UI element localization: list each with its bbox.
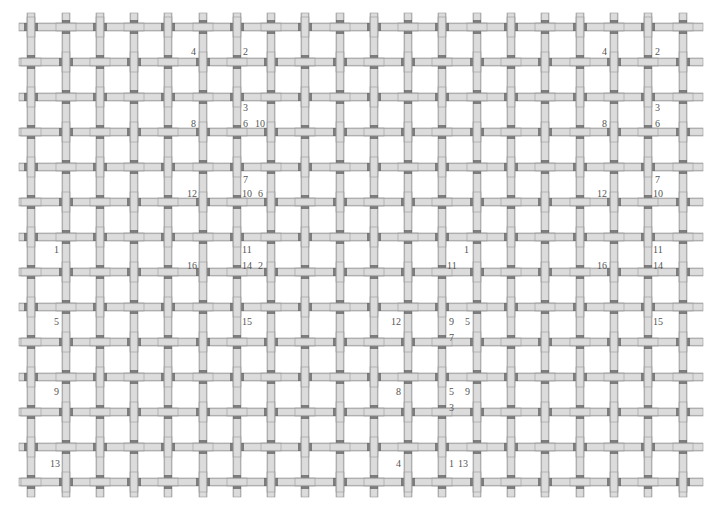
weft-over-crossing	[158, 128, 178, 136]
warp-over-crossing	[404, 332, 412, 352]
crossing-shadow	[264, 198, 267, 206]
crossing-shadow	[576, 276, 584, 279]
weft-over-crossing	[535, 303, 555, 311]
crossing-shadow	[164, 416, 172, 419]
warp-over-crossing	[164, 297, 172, 317]
crossing-shadow	[679, 440, 687, 443]
warp-over-crossing	[610, 192, 618, 212]
crossing-shadow	[576, 475, 584, 478]
crossing-shadow	[378, 93, 381, 101]
crossing-shadow	[301, 66, 309, 69]
crossing-shadow	[473, 31, 481, 34]
warp-over-crossing	[233, 87, 241, 107]
warp-over-crossing	[267, 52, 275, 72]
weft-over-crossing	[330, 23, 350, 31]
weft-over-crossing	[193, 233, 213, 241]
weft-over-crossing	[673, 303, 693, 311]
crossing-shadow	[446, 233, 449, 241]
crossing-shadow	[267, 300, 275, 303]
crossing-shadow	[138, 128, 141, 136]
weft-over-crossing	[261, 443, 281, 451]
warp-over-crossing	[576, 17, 584, 37]
warp-over-crossing	[473, 52, 481, 72]
crossing-shadow	[618, 408, 621, 416]
crossing-shadow	[233, 276, 241, 279]
crossing-shadow	[367, 443, 370, 451]
weft-over-crossing	[604, 373, 624, 381]
crossing-shadow	[70, 58, 73, 66]
weft-over-crossing	[501, 268, 521, 276]
crossing-shadow	[27, 206, 35, 209]
warp-strand	[62, 13, 70, 497]
weft-over-crossing	[193, 23, 213, 31]
crossing-shadow	[96, 66, 104, 69]
crossing-shadow	[470, 58, 473, 66]
crossing-shadow	[412, 58, 415, 66]
crossing-shadow	[138, 58, 141, 66]
crossing-shadow	[438, 265, 446, 268]
warp-over-crossing	[644, 437, 652, 457]
warp-over-crossing	[438, 437, 446, 457]
weft-over-crossing	[535, 93, 555, 101]
crossing-shadow	[27, 405, 35, 408]
weft-over-crossing	[398, 23, 418, 31]
crossing-shadow	[538, 338, 541, 346]
weft-over-crossing	[330, 163, 350, 171]
crossing-shadow	[610, 160, 618, 163]
crossing-shadow	[584, 163, 587, 171]
warp-over-crossing	[473, 122, 481, 142]
weft-over-crossing	[90, 128, 110, 136]
crossing-shadow	[233, 335, 241, 338]
crossing-shadow	[515, 303, 518, 311]
warp-over-crossing	[610, 122, 618, 142]
crossing-shadow	[298, 373, 301, 381]
crossing-shadow	[59, 58, 62, 66]
crossing-shadow	[573, 303, 576, 311]
crossing-shadow	[618, 198, 621, 206]
weft-over-crossing	[673, 23, 693, 31]
warp-over-crossing	[233, 297, 241, 317]
crossing-shadow	[96, 475, 104, 478]
warp-over-crossing	[27, 17, 35, 37]
crossing-shadow	[70, 478, 73, 486]
weft-over-crossing	[261, 163, 281, 171]
warp-strand	[267, 13, 275, 497]
weft-over-crossing	[158, 408, 178, 416]
warp-over-crossing	[62, 332, 70, 352]
crossing-shadow	[507, 416, 515, 419]
crossing-shadow	[62, 311, 70, 314]
number-label: 4	[191, 47, 196, 57]
crossing-shadow	[130, 20, 138, 23]
crossing-shadow	[199, 451, 207, 454]
warp-over-crossing	[438, 17, 446, 37]
crossing-shadow	[233, 405, 241, 408]
crossing-shadow	[62, 101, 70, 104]
crossing-shadow	[127, 198, 130, 206]
crossing-shadow	[652, 373, 655, 381]
weft-strand	[19, 163, 703, 171]
weft-over-crossing	[398, 303, 418, 311]
weft-over-crossing	[467, 23, 487, 31]
crossing-shadow	[576, 55, 584, 58]
warp-over-crossing	[336, 192, 344, 212]
weft-over-crossing	[330, 93, 350, 101]
crossing-shadow	[130, 311, 138, 314]
crossing-shadow	[96, 136, 104, 139]
warp-over-crossing	[404, 262, 412, 282]
weft-over-crossing	[501, 198, 521, 206]
warp-over-crossing	[679, 472, 687, 492]
crossing-shadow	[504, 233, 507, 241]
weft-over-crossing	[638, 338, 658, 346]
weft-over-crossing	[604, 163, 624, 171]
crossing-shadow	[199, 90, 207, 93]
warp-over-crossing	[301, 157, 309, 177]
crossing-shadow	[336, 311, 344, 314]
crossing-shadow	[644, 136, 652, 139]
warp-over-crossing	[507, 367, 515, 387]
crossing-shadow	[267, 311, 275, 314]
weft-over-crossing	[158, 478, 178, 486]
crossing-shadow	[576, 136, 584, 139]
warp-over-crossing	[130, 402, 138, 422]
warp-over-crossing	[267, 262, 275, 282]
crossing-shadow	[164, 475, 172, 478]
